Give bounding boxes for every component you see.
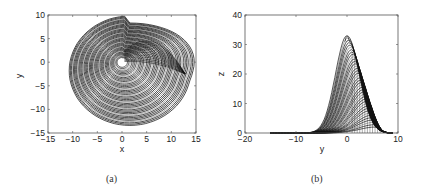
x-tick-label: 10 bbox=[393, 134, 403, 144]
caption-a: (a) bbox=[106, 173, 117, 184]
attractor-yz-curves bbox=[271, 36, 393, 133]
x-axis-label-b: y bbox=[320, 144, 325, 154]
y-tick-label: 10 bbox=[233, 99, 243, 109]
x-tick-label: 0 bbox=[345, 134, 350, 144]
y-tick-label: 30 bbox=[233, 40, 243, 50]
y-tick-label: 20 bbox=[233, 69, 243, 79]
y-tick-label: 0 bbox=[237, 128, 242, 138]
chart-b: −20−10010010203040 y z bbox=[0, 0, 422, 194]
y-tick-label: 40 bbox=[233, 10, 243, 20]
x-tick-label: −10 bbox=[289, 134, 304, 144]
caption-b: (b) bbox=[311, 173, 323, 184]
plot-frame-b bbox=[245, 15, 398, 133]
y-axis-label-b: z bbox=[216, 71, 226, 76]
